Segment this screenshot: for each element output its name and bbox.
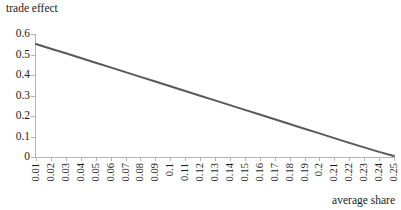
x-tick-mark	[81, 157, 82, 161]
x-tick-label: 0.16	[255, 163, 266, 181]
y-tick-label: 0.3	[16, 90, 30, 102]
x-axis-title: average share	[332, 194, 395, 207]
x-tick-mark	[51, 157, 52, 161]
x-tick-mark	[66, 157, 67, 161]
x-tick-mark	[394, 157, 395, 161]
x-tick-label: 0.2	[314, 163, 325, 176]
x-tick-mark	[126, 157, 127, 161]
x-tick-label: 0.01	[31, 163, 42, 181]
x-tick-mark	[260, 157, 261, 161]
x-tick-mark	[319, 157, 320, 161]
x-tick-label: 0.25	[389, 163, 400, 181]
y-tick-label: 0	[24, 151, 30, 163]
x-tick-mark	[275, 157, 276, 161]
x-tick-label: 0.04	[76, 163, 87, 181]
x-tick-mark	[334, 157, 335, 161]
x-tick-mark	[185, 157, 186, 161]
x-tick-label: 0.24	[374, 163, 385, 181]
x-tick-label: 0.17	[269, 163, 280, 181]
x-tick-mark	[245, 157, 246, 161]
y-tick-label: 0.1	[16, 131, 30, 143]
x-tick-mark	[170, 157, 171, 161]
x-tick-label: 0.03	[61, 163, 72, 181]
x-tick-label: 0.11	[180, 163, 191, 181]
x-tick-mark	[200, 157, 201, 161]
x-tick-label: 0.21	[329, 163, 340, 181]
x-tick-label: 0.12	[195, 163, 206, 181]
y-axis-title: trade effect	[6, 2, 58, 15]
x-tick-mark	[290, 157, 291, 161]
x-tick-label: 0.09	[150, 163, 161, 181]
x-tick-label: 0.15	[240, 163, 251, 181]
x-tick-label: 0.02	[46, 163, 57, 181]
x-tick-label: 0.23	[359, 163, 370, 181]
x-tick-label: 0.1	[165, 163, 176, 176]
x-tick-label: 0.14	[225, 163, 236, 181]
x-tick-label: 0.05	[90, 163, 101, 181]
x-tick-mark	[96, 157, 97, 161]
chart-figure: trade effect 0.60.50.40.30.20.10 0.010.0…	[0, 0, 401, 210]
x-tick-mark	[379, 157, 380, 161]
x-tick-mark	[111, 157, 112, 161]
x-tick-label: 0.08	[135, 163, 146, 181]
y-tick-label: 0.6	[16, 28, 30, 40]
x-tick-mark	[305, 157, 306, 161]
x-tick-mark	[364, 157, 365, 161]
x-tick-mark	[140, 157, 141, 161]
x-tick-label: 0.22	[344, 163, 355, 181]
x-tick-label: 0.13	[210, 163, 221, 181]
plot-area: 0.60.50.40.30.20.10 0.010.020.030.040.05…	[36, 34, 394, 157]
y-tick-label: 0.2	[16, 110, 30, 122]
x-tick-mark	[349, 157, 350, 161]
trade-effect-line-series	[36, 34, 394, 157]
x-tick-label: 0.07	[120, 163, 131, 181]
x-tick-mark	[215, 157, 216, 161]
x-tick-label: 0.19	[299, 163, 310, 181]
x-tick-label: 0.06	[105, 163, 116, 181]
x-tick-mark	[155, 157, 156, 161]
y-tick-label: 0.4	[16, 69, 30, 81]
x-tick-label: 0.18	[284, 163, 295, 181]
x-tick-mark	[36, 157, 37, 161]
x-tick-mark	[230, 157, 231, 161]
y-tick-label: 0.5	[16, 49, 30, 61]
